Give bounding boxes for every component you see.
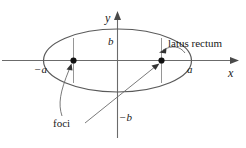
foci-leader-left <box>60 64 72 117</box>
foci-label: foci <box>53 118 70 129</box>
label-a-positive: a <box>187 64 193 75</box>
foci-leader-left-arrowhead <box>67 64 73 71</box>
label-a-negative: −a <box>34 64 47 75</box>
latus-rectum-label: latus rectum <box>168 38 222 49</box>
x-axis-label: x <box>228 67 233 79</box>
label-b-negative: −b <box>119 112 132 123</box>
focus-left-point <box>70 57 76 63</box>
y-axis-label: y <box>105 12 110 24</box>
foci-leader-left-line <box>60 70 69 116</box>
y-axis-arrowhead <box>114 11 121 20</box>
focus-right-point <box>158 57 164 63</box>
latus-rectum-leader-arrowhead <box>159 48 167 54</box>
x-axis-arrowhead <box>230 57 239 64</box>
label-b-positive: b <box>108 36 114 47</box>
ellipse-figure: y x b −b −a a foci latus rectum <box>0 0 246 148</box>
